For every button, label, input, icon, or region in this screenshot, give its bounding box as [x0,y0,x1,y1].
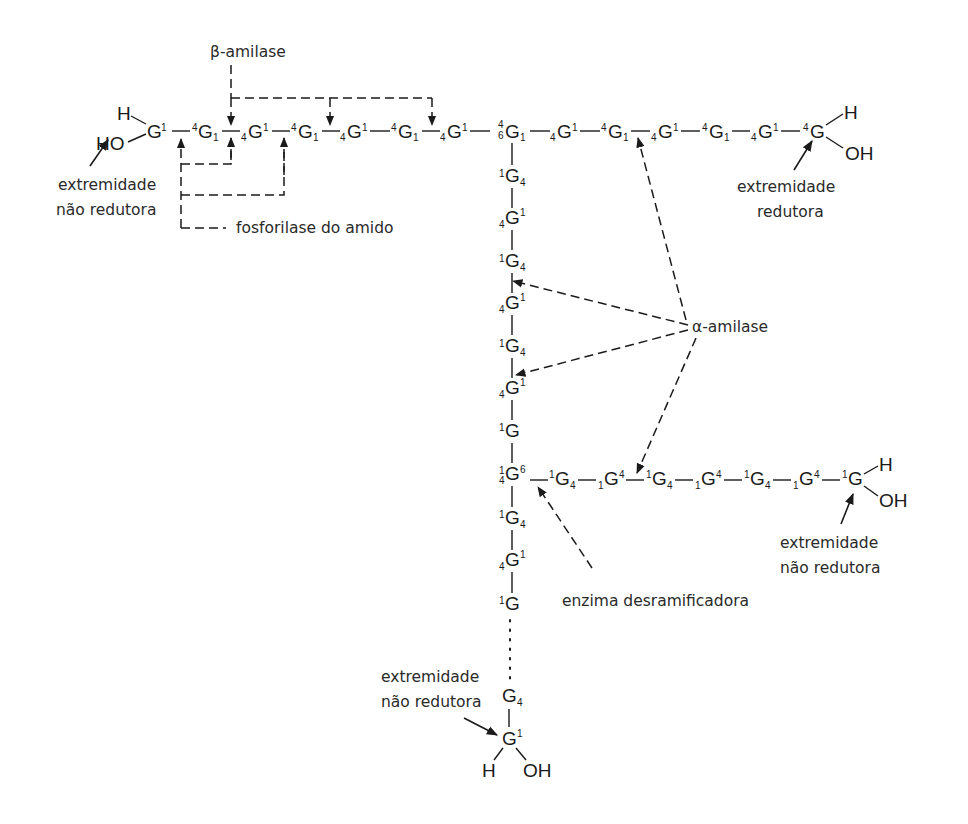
end-label-line1: extremidade [780,534,878,552]
svg-text:1: 1 [213,132,219,143]
svg-text:1: 1 [520,377,526,388]
svg-text:4: 4 [814,469,820,480]
atom-h: H [482,760,496,781]
svg-text:4: 4 [440,132,446,143]
main-chain: H HO G1 4G1 4G1 4G1 4G1 4G1 4G1 46 G1 4G… [96,102,874,164]
svg-text:4: 4 [340,132,346,143]
glucose-unit: G [604,468,619,489]
glucose-unit: G [298,121,313,142]
svg-text:1: 1 [462,122,468,133]
starch-phosphorylase-label: fosforilase do amido [236,219,393,237]
branch-terminal-glucose: G [848,468,863,489]
glucose-unit: G [557,121,572,142]
end-label-line2: não redutora [381,693,481,711]
svg-text:4: 4 [751,132,757,143]
svg-text:4: 4 [520,519,526,530]
svg-text:4: 4 [520,177,526,188]
svg-text:4: 4 [570,480,576,491]
reducing-end-glucose: G [810,121,825,142]
glucose-unit: G [505,420,520,441]
alpha-amylase-annotation: α-amilase [513,138,768,473]
glucose-unit: G [347,121,362,142]
svg-text:4: 4 [550,132,556,143]
svg-text:4: 4 [651,132,657,143]
glucose-unit: G [505,292,520,313]
non-reducing-end-bottom: extremidade não redutora [381,668,497,735]
svg-text:1: 1 [623,132,629,143]
branch-point-glucose: G [505,121,520,142]
alpha-amylase-label: α-amilase [692,318,768,336]
svg-text:4: 4 [667,480,673,491]
starch-degradation-diagram: H HO G1 4G1 4G1 4G1 4G1 4G1 4G1 46 G1 4G… [0,0,968,824]
svg-text:1: 1 [413,132,419,143]
glucose-unit: G [505,250,520,271]
svg-text:1: 1 [520,207,526,218]
svg-text:4: 4 [619,469,625,480]
glucose-unit: G [652,468,667,489]
glucose-unit: G [505,165,520,186]
starch-phosphorylase-annotation: fosforilase do amido [181,138,393,237]
branch-point-glucose: G [505,463,520,484]
end-label-line1: extremidade [737,178,835,196]
glucose-unit: G [248,121,263,142]
svg-text:1: 1 [263,122,269,133]
glucose-unit: G [658,121,673,142]
end-label-line2: redutora [757,203,824,221]
svg-text:1: 1 [724,132,730,143]
glucose-unit: G [701,468,716,489]
atom-oh: OH [879,490,908,511]
glucose-unit: G [447,121,462,142]
svg-text:4: 4 [702,122,708,133]
svg-text:6: 6 [498,130,504,141]
svg-text:4: 4 [601,122,607,133]
glucose-unit: G [198,121,213,142]
glucose-unit: G [750,468,765,489]
svg-text:1: 1 [572,122,578,133]
end-label-line2: não redutora [56,201,156,219]
svg-text:1: 1 [773,122,779,133]
svg-text:4: 4 [391,122,397,133]
svg-text:1: 1 [520,132,526,143]
glucose-unit: G [505,377,520,398]
svg-text:4: 4 [716,469,722,480]
vertical-branch-chain: 1G4 4G1 1G4 4G1 1G4 4G1 1G 14 G6 1G4 4G1… [482,143,552,781]
beta-amylase-label: β-amilase [210,43,286,61]
end-label-line2: não redutora [780,559,880,577]
glucose-unit: G [799,468,814,489]
svg-text:1: 1 [517,728,523,739]
svg-text:4: 4 [765,480,771,491]
end-label-line1: extremidade [381,668,479,686]
glucose-unit: G [505,549,520,570]
glucose-unit: G [398,121,413,142]
atom-h: H [117,103,131,124]
atom-oh: OH [845,143,874,164]
svg-text:1: 1 [520,292,526,303]
atom-h: H [879,454,893,475]
svg-text:4: 4 [803,122,809,133]
glucose-unit: G [608,121,623,142]
svg-text:4: 4 [498,119,504,130]
glucose-unit: G [709,121,724,142]
svg-text:4: 4 [241,132,247,143]
svg-text:4: 4 [520,347,526,358]
reducing-end-top-right: extremidade redutora [737,141,835,221]
glucose-unit: G [147,121,162,142]
svg-text:1: 1 [313,132,319,143]
glucose-unit: G [502,685,517,706]
glucose-unit: G [758,121,773,142]
side-branch-chain: 1G4 1G4 1G4 1G4 1G4 1G4 1G H OH [530,454,908,511]
debranching-enzyme-label: enzima desramificadora [562,592,749,610]
end-label-line1: extremidade [58,176,156,194]
svg-text:6: 6 [520,464,526,475]
atom-oh: OH [523,760,552,781]
glucose-unit: G [505,593,520,614]
svg-text:1: 1 [520,549,526,560]
glucose-unit: G [505,207,520,228]
svg-text:4: 4 [291,122,297,133]
svg-text:1: 1 [362,122,368,133]
glucose-unit: G [505,507,520,528]
svg-text:4: 4 [520,262,526,273]
svg-text:1: 1 [161,122,167,133]
atom-h: H [844,102,858,123]
glucose-unit: G [505,335,520,356]
